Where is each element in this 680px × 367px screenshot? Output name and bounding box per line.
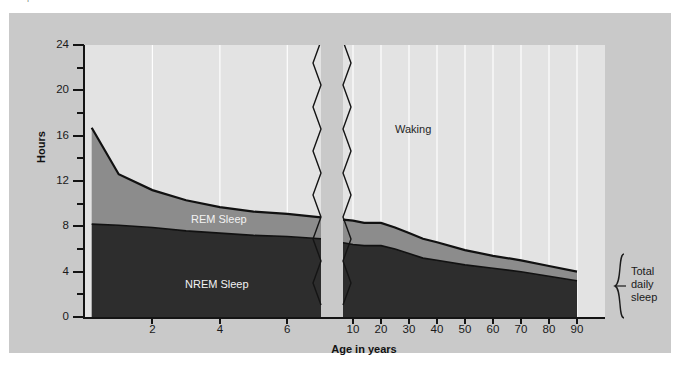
y-tick-major [73, 135, 84, 137]
figure-root: sleep in a lifetime of a human. 04812162… [0, 0, 680, 367]
nrem-sleep-label: NREM Sleep [185, 278, 249, 290]
x-tick-label: 20 [375, 323, 388, 335]
plot-svg [85, 45, 605, 317]
bracket-line-3: sleep [631, 291, 657, 304]
y-tick-minor [77, 248, 84, 250]
y-tick-label: 8 [35, 219, 69, 231]
y-tick-minor [77, 293, 84, 295]
figure-panel: 04812162024 Hours 246102030405060708090 … [9, 13, 671, 353]
x-tick-label: 50 [459, 323, 472, 335]
x-tick-label: 80 [543, 323, 556, 335]
total-daily-sleep-bracket-icon [613, 253, 627, 319]
waking-label: Waking [395, 123, 431, 135]
x-tick-label: 60 [487, 323, 500, 335]
y-axis-title: Hours [35, 131, 47, 163]
y-tick-major [73, 180, 84, 182]
rem-sleep-label: REM Sleep [191, 213, 247, 225]
y-tick-major [73, 271, 84, 273]
top-caption: sleep in a lifetime of a human. [14, 0, 110, 1]
x-tick-label: 40 [431, 323, 444, 335]
bracket-line-2: daily [631, 278, 657, 291]
x-tick-label: 10 [347, 323, 360, 335]
y-tick-major [73, 89, 84, 91]
x-tick-label: 2 [149, 323, 155, 335]
x-tick-label: 6 [284, 323, 290, 335]
x-axis-labels: 246102030405060708090 [9, 323, 671, 343]
plot-area [85, 45, 605, 317]
y-tick-major [73, 225, 84, 227]
y-tick-label: 20 [35, 83, 69, 95]
x-axis-title: Age in years [9, 343, 671, 355]
bracket-line-1: Total [631, 265, 657, 278]
y-tick-major [73, 44, 84, 46]
y-tick-minor [77, 157, 84, 159]
y-tick-label: 0 [35, 310, 69, 322]
x-tick-label: 4 [217, 323, 223, 335]
y-tick-label: 24 [35, 38, 69, 50]
total-daily-sleep-label: Total daily sleep [631, 265, 657, 304]
x-axis-line [83, 317, 605, 319]
x-tick-label: 70 [515, 323, 528, 335]
y-tick-minor [77, 67, 84, 69]
x-tick-label: 30 [403, 323, 416, 335]
y-tick-minor [77, 112, 84, 114]
x-tick-label: 90 [571, 323, 584, 335]
y-axis-labels: 04812162024 [31, 45, 69, 317]
y-tick-label: 12 [35, 174, 69, 186]
y-tick-minor [77, 203, 84, 205]
y-tick-label: 4 [35, 265, 69, 277]
